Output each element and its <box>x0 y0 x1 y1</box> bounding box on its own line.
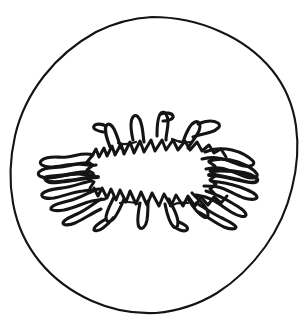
line-drawing-illustration <box>0 0 306 330</box>
outer-circle-overstroke <box>44 17 152 76</box>
tendril-bottom-left-hook <box>94 218 113 231</box>
tendril-top-center <box>157 112 168 140</box>
figure-canvas <box>0 0 306 330</box>
outer-circle-overstroke-lower <box>17 221 92 301</box>
tendril-top-right-outer <box>193 121 219 137</box>
left-tendril-cluster <box>38 154 105 225</box>
central-body-group <box>38 112 257 231</box>
tendril-bottom-center-hook <box>174 222 187 231</box>
tendril-bottom-mid-left <box>138 201 148 228</box>
tendril-top-left <box>105 124 121 148</box>
tendril-top-mid-left <box>131 116 144 142</box>
